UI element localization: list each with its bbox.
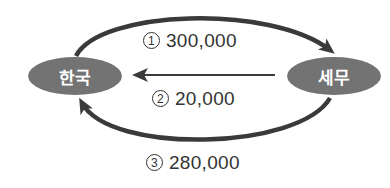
node-korea: 한국 (28, 57, 122, 95)
number-1-icon: 1 (143, 32, 160, 49)
flow-label-3: 3280,000 (146, 152, 240, 174)
node-semu: 세무 (287, 57, 381, 95)
node-semu-label: 세무 (318, 64, 350, 89)
flow-value-3: 280,000 (169, 152, 240, 173)
flow-label-2: 220,000 (152, 88, 235, 110)
flow-label-1: 1300,000 (143, 30, 237, 52)
flow-value-2: 20,000 (175, 88, 235, 109)
number-3-icon: 3 (146, 154, 163, 171)
node-korea-label: 한국 (59, 64, 91, 89)
number-2-icon: 2 (152, 90, 169, 107)
flow-value-1: 300,000 (166, 30, 237, 51)
